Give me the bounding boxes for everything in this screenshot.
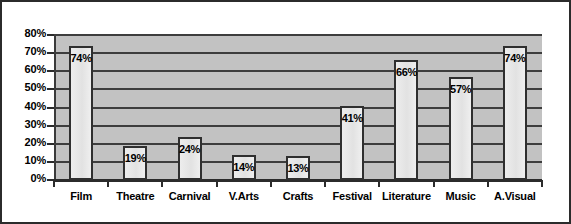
x-tick-mark [216, 180, 218, 187]
y-tick-mark [47, 107, 54, 109]
bar-value-label: 57% [431, 83, 491, 95]
x-tick-mark [378, 180, 380, 187]
y-tick-mark [47, 70, 54, 72]
gridline [54, 70, 542, 72]
bar-value-label: 41% [322, 112, 382, 124]
x-tick-mark [487, 180, 489, 187]
x-axis-line [54, 180, 542, 182]
y-tick-label: 50% [6, 81, 46, 93]
category-label: A.Visual [482, 190, 548, 202]
y-tick-label: 0% [6, 172, 46, 184]
y-tick-label: 40% [6, 100, 46, 112]
x-tick-mark [324, 180, 326, 187]
y-tick-label: 80% [6, 27, 46, 39]
bar [503, 46, 527, 180]
bar-value-label: 14% [214, 161, 274, 173]
y-tick-label: 60% [6, 63, 46, 75]
x-tick-mark [107, 180, 109, 187]
x-tick-mark [270, 180, 272, 187]
x-tick-mark [541, 180, 543, 187]
y-tick-mark [47, 88, 54, 90]
y-tick-mark [47, 125, 54, 127]
chart-frame: 0%10%20%30%40%50%60%70%80% 74%19%24%14%1… [0, 0, 571, 224]
y-tick-label: 70% [6, 45, 46, 57]
x-tick-mark [53, 180, 55, 187]
bar-value-label: 74% [485, 52, 545, 64]
y-tick-label: 30% [6, 118, 46, 130]
y-tick-mark [47, 143, 54, 145]
bar-value-label: 24% [160, 143, 220, 155]
y-tick-mark [47, 161, 54, 163]
bar-value-label: 13% [268, 162, 328, 174]
bar-value-label: 74% [51, 52, 111, 64]
gridline [54, 34, 542, 36]
gridline [54, 52, 542, 54]
bar-value-label: 66% [376, 66, 436, 78]
x-tick-mark [161, 180, 163, 187]
bar-value-label: 19% [105, 152, 165, 164]
y-tick-label: 10% [6, 154, 46, 166]
x-tick-mark [433, 180, 435, 187]
y-tick-label: 20% [6, 136, 46, 148]
y-tick-mark [47, 34, 54, 36]
bar [69, 46, 93, 180]
